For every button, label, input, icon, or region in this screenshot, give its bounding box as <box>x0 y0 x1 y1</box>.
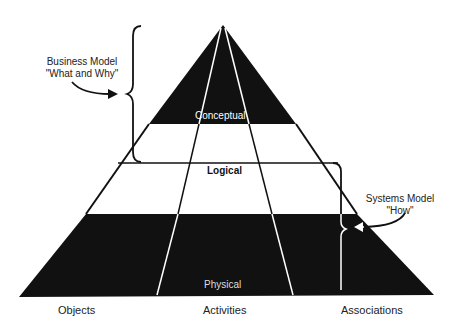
logical-label: Logical <box>207 165 242 176</box>
column-activities: Activities <box>203 304 246 316</box>
column-associations: Associations <box>341 304 403 316</box>
conceptual-label: Conceptual <box>195 110 246 121</box>
physical-label: Physical <box>204 279 241 290</box>
systems-model-label: Systems Model "How" <box>360 193 440 217</box>
business-model-label: Business Model "What and Why" <box>38 56 126 80</box>
business-model-arrow <box>72 82 110 94</box>
column-objects: Objects <box>58 304 95 316</box>
